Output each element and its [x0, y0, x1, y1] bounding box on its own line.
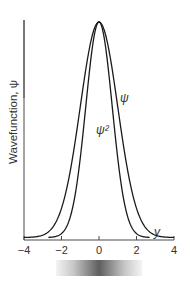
x-tick-label: −2	[55, 244, 68, 256]
x-tick-label: −4	[18, 244, 31, 256]
psi-squared-label: ψ²	[96, 123, 110, 137]
x-ticks	[24, 236, 174, 240]
x-tick-label: 2	[133, 244, 139, 256]
x-tick-label: 0	[96, 244, 102, 256]
psi-label: ψ	[120, 91, 129, 105]
wavefunction-chart: −4−2024 Wavefunction, ψ y ψ ψ²	[0, 0, 190, 286]
x-tick-labels: −4−2024	[18, 244, 177, 256]
x-tick-label: 4	[171, 244, 177, 256]
y-axis-label: Wavefunction, ψ	[7, 80, 19, 164]
probability-density-strip	[56, 260, 142, 276]
